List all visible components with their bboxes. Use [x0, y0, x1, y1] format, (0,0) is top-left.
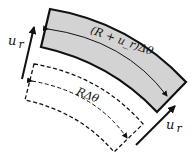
displacement-label-right: ur [166, 117, 182, 135]
original-arc-label: RΔθ [74, 85, 101, 106]
curved-beam-element-diagram: (R + u_r)Δθ RΔθ ur ur [0, 0, 192, 158]
displacement-label-left: ur [8, 33, 24, 51]
